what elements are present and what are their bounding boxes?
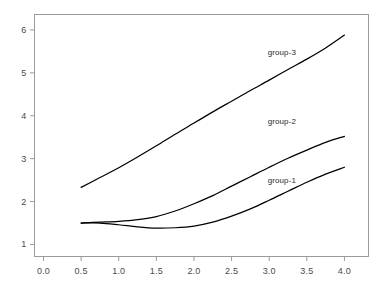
x-tick-label: 3.0 — [263, 266, 276, 276]
series-label-group-2: group-2 — [268, 117, 296, 126]
x-tick-label: 2.0 — [187, 266, 200, 276]
plot-frame-rect — [35, 15, 369, 257]
x-tick-label: 0.5 — [75, 266, 88, 276]
series-label-group-1: group-1 — [268, 176, 296, 185]
series-label-group-3: group-3 — [268, 48, 296, 57]
y-tick-label: 2 — [0, 197, 27, 207]
series-line-group-2 — [81, 136, 344, 223]
x-tick-label: 3.5 — [300, 266, 313, 276]
line-chart: 0.00.51.01.52.02.53.03.54.0 123456 group… — [0, 0, 388, 297]
series-line-group-3 — [81, 35, 344, 187]
y-tick-label: 5 — [0, 68, 27, 78]
series-line-group-1 — [81, 167, 344, 228]
y-tick-label: 1 — [0, 239, 27, 249]
x-tick-label: 2.5 — [225, 266, 238, 276]
y-tick-label: 3 — [0, 154, 27, 164]
x-tick-label: 1.0 — [112, 266, 125, 276]
series-lines — [81, 35, 344, 228]
plot-frame — [35, 15, 369, 257]
y-tick-label: 6 — [0, 25, 27, 35]
x-tick-label: 0.0 — [37, 266, 50, 276]
x-tick-label: 1.5 — [150, 266, 163, 276]
x-tick-label: 4.0 — [338, 266, 351, 276]
plot-area — [0, 0, 388, 297]
y-tick-label: 4 — [0, 111, 27, 121]
